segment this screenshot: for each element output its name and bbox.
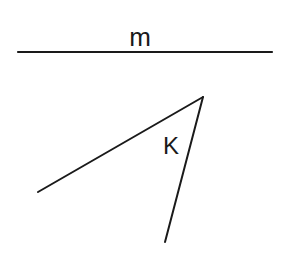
diagram-canvas: m K xyxy=(0,0,286,258)
line-label-m: m xyxy=(129,22,151,52)
angle-label-k: K xyxy=(163,132,179,159)
angle-ray-down xyxy=(165,97,203,242)
geometry-figure: m K xyxy=(0,0,286,258)
